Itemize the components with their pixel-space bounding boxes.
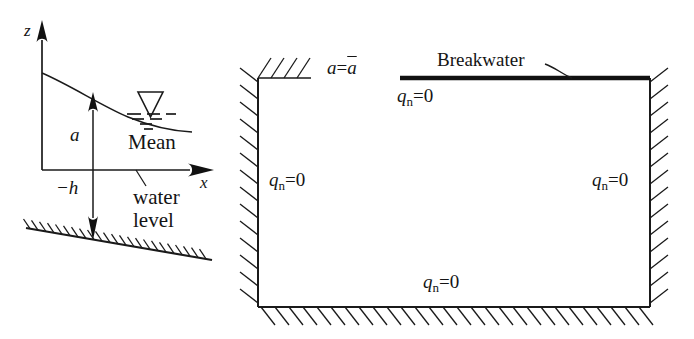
flux-equals-zero: =0 [439,271,459,292]
bottom-wall-hatching [261,307,653,325]
water-label: water [133,186,180,208]
flux-label-breakwater: qn=0 [397,86,433,108]
z-axis-label: z [24,22,31,40]
z-axis [37,20,48,170]
breakwater-label: Breakwater [437,50,525,70]
mean-water-level-leader [136,170,146,186]
z-axis-arrowhead [37,20,48,42]
bc-a-symbol: a [327,57,337,78]
flux-equals-zero: =0 [413,85,433,106]
flux-label-bottom-wall: qn=0 [423,272,459,294]
figure-root: z x a −h Mean water level a=a Breakwater… [0,0,694,339]
water-level-symbol [127,92,176,129]
amplitude-label: a [70,125,80,145]
amplitude-arrow [88,92,98,170]
x-axis-label: x [200,174,208,192]
flux-label-left-wall: qn=0 [269,170,305,192]
diagram-canvas [0,0,694,339]
bc-equals: = [337,57,348,78]
top-boundary-condition-label: a=a [327,58,357,78]
x-axis [42,164,214,177]
free-surface-curve [42,73,192,132]
left-wall-hatching [240,68,258,303]
seabed [24,219,213,260]
right-wall-hatching [650,68,668,303]
flux-equals-zero: =0 [608,169,628,190]
flux-label-right-wall: qn=0 [592,170,628,192]
flux-q-symbol: q [423,271,433,292]
top-left-hatching [258,58,311,78]
flux-equals-zero: =0 [285,169,305,190]
depth-arrow [88,170,98,240]
flux-q-symbol: q [592,169,602,190]
flux-q-symbol: q [397,85,407,106]
seabed-hatching [24,219,207,259]
level-label: level [133,209,174,231]
depth-label: −h [56,178,78,198]
flux-q-symbol: q [269,169,279,190]
left-panel-group [24,20,215,260]
bc-a-bar: a [347,57,357,78]
mean-label: Mean [128,131,176,153]
